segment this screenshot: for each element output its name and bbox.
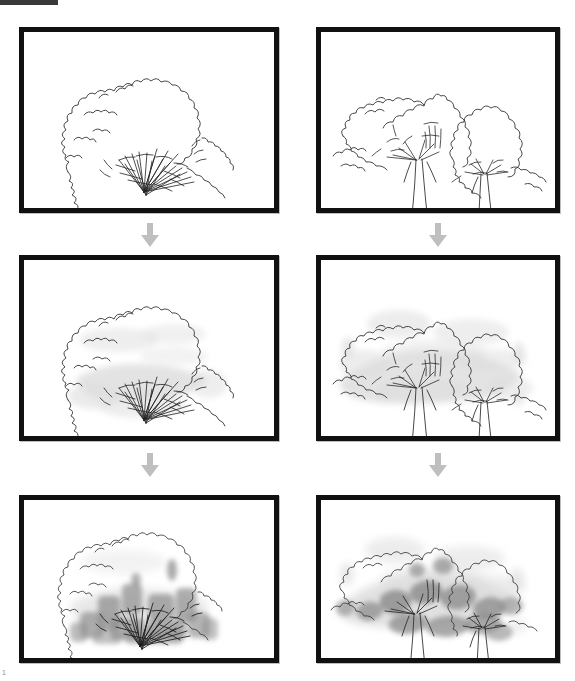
panel-trees-dark-wash[interactable] <box>316 495 560 663</box>
plate-trees-outline <box>321 32 555 208</box>
page-number: 1 <box>2 668 6 677</box>
shrub-sketch-light-wash-icon <box>24 260 274 436</box>
plate-shrub-outline <box>24 32 274 208</box>
panel-trees-light-wash[interactable] <box>316 255 560 441</box>
plate-shrub-dark-wash <box>24 500 274 658</box>
top-rule <box>0 0 58 5</box>
plate-trees-light-wash <box>321 260 555 436</box>
arrow-left-2 <box>137 452 163 478</box>
shrub-sketch-outline-icon <box>24 32 274 208</box>
panel-shrub-outline[interactable] <box>19 27 279 213</box>
arrow-down-icon <box>137 222 163 248</box>
shrub-sketch-dark-wash-icon <box>24 500 274 658</box>
tree-group-sketch-light-wash-icon <box>321 260 555 436</box>
panel-shrub-light-wash[interactable] <box>19 255 279 441</box>
arrow-down-icon <box>137 452 163 478</box>
arrow-right-1 <box>425 222 451 248</box>
arrow-down-icon <box>425 222 451 248</box>
plate-shrub-light-wash <box>24 260 274 436</box>
arrow-left-1 <box>137 222 163 248</box>
arrow-right-2 <box>425 452 451 478</box>
panel-trees-outline[interactable] <box>316 27 560 213</box>
tree-group-sketch-outline-icon <box>321 32 555 208</box>
panel-shrub-dark-wash[interactable] <box>19 495 279 663</box>
arrow-down-icon <box>425 452 451 478</box>
tree-group-sketch-dark-wash-icon <box>321 500 555 658</box>
plate-trees-dark-wash <box>321 500 555 658</box>
page-canvas: 1 <box>0 0 575 681</box>
